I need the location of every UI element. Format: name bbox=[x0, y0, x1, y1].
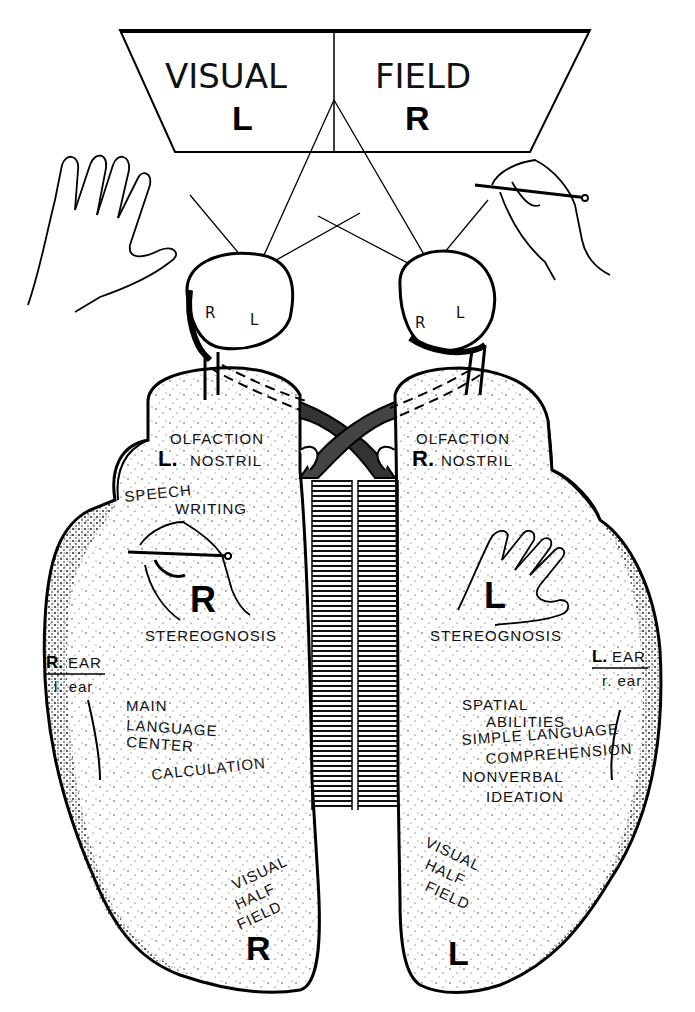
writing-hand-icon bbox=[475, 160, 610, 280]
left-nostril-label: NOSTRIL bbox=[190, 452, 262, 469]
left-eye-r-label: R bbox=[205, 304, 215, 322]
right-ear-major-label: EAR bbox=[612, 648, 646, 665]
spatial-label: SPATIAL bbox=[462, 696, 528, 713]
left-hand-letter: R bbox=[190, 579, 216, 620]
right-eye-r-label: R bbox=[415, 314, 425, 332]
visual-field-title-right: FIELD bbox=[375, 56, 471, 96]
left-eye-l-label: L bbox=[250, 311, 259, 329]
main-label: MAIN bbox=[126, 697, 168, 714]
left-field-letter: R bbox=[246, 929, 271, 967]
split-brain-diagram: VISUAL FIELD L R R L R L bbox=[0, 0, 695, 1012]
left-ear-major-label: EAR bbox=[68, 654, 102, 671]
right-field-letter: L bbox=[448, 934, 469, 972]
ideation-label: IDEATION bbox=[486, 788, 564, 805]
left-ear-minor-label: l. ear bbox=[54, 678, 93, 695]
right-ear-minor-label: r. ear bbox=[602, 672, 642, 689]
right-eye-l-label: L bbox=[456, 304, 465, 322]
right-olfaction-label: OLFACTION bbox=[416, 430, 510, 447]
visual-field-title-left: VISUAL bbox=[165, 56, 287, 96]
visual-field-panel: VISUAL FIELD L R bbox=[120, 30, 590, 152]
right-stereognosis-label: STEREOGNOSIS bbox=[430, 627, 562, 644]
right-nostril-letter: R. bbox=[412, 446, 434, 471]
right-ear-major-letter: L. bbox=[592, 647, 607, 666]
left-ear-major-letter: R. bbox=[46, 653, 63, 672]
left-nostril-letter: L. bbox=[158, 446, 178, 471]
open-left-hand-icon bbox=[28, 156, 176, 312]
nonverbal-label: NONVERBAL bbox=[462, 768, 564, 785]
corpus-callosum bbox=[312, 480, 398, 810]
right-nostril-label: NOSTRIL bbox=[441, 452, 513, 469]
visual-field-left-letter: L bbox=[232, 99, 253, 137]
right-hand-letter: L bbox=[484, 575, 506, 616]
left-stereognosis-label: STEREOGNOSIS bbox=[145, 627, 277, 644]
writing-label: WRITING bbox=[175, 500, 247, 517]
left-olfaction-label: OLFACTION bbox=[170, 430, 264, 447]
visual-field-right-letter: R bbox=[405, 99, 430, 137]
